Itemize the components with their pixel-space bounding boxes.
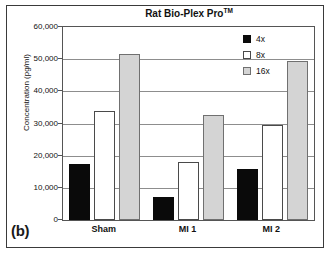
x-axis-tick-labels: ShamMI 1MI 2 xyxy=(62,224,315,240)
bar-mi-1-4x xyxy=(153,197,174,220)
x-axis-tick-label: MI 2 xyxy=(262,224,280,234)
y-axis-tick-label: 60,000 xyxy=(34,22,58,31)
legend-item-4x: 4x xyxy=(243,32,299,46)
bar-mi-2-8x xyxy=(262,125,283,220)
legend-swatch-icon xyxy=(243,51,251,59)
bar-mi-1-8x xyxy=(178,162,199,220)
figure-panel: (b) Rat Bio-Plex ProTM Concentration (pg… xyxy=(0,0,331,254)
y-axis-tick-label: 20,000 xyxy=(34,150,58,159)
bar-sham-8x xyxy=(94,111,115,220)
legend-item-8x: 8x xyxy=(243,48,299,62)
y-axis-tick-label: 50,000 xyxy=(34,54,58,63)
bar-sham-16x xyxy=(119,54,140,220)
bar-mi-2-4x xyxy=(237,169,258,220)
chart-title: Rat Bio-Plex ProTM xyxy=(60,8,318,19)
gridline xyxy=(63,91,314,92)
legend-item-label: 16x xyxy=(256,66,270,76)
legend-item-label: 8x xyxy=(256,50,265,60)
chart-legend: 4x8x16x xyxy=(243,32,299,80)
chart-title-text: Rat Bio-Plex Pro xyxy=(145,8,223,19)
chart-title-trademark: TM xyxy=(223,7,232,14)
y-axis-tick-label: 10,000 xyxy=(34,182,58,191)
bar-sham-4x xyxy=(69,164,90,220)
x-axis-tick-label: Sham xyxy=(92,224,117,234)
bar-mi-1-16x xyxy=(203,115,224,220)
legend-swatch-icon xyxy=(243,67,251,75)
y-axis-tick-label: 30,000 xyxy=(34,118,58,127)
y-axis-tick-label: 40,000 xyxy=(34,86,58,95)
bar-mi-2-16x xyxy=(287,61,308,220)
legend-item-label: 4x xyxy=(256,34,265,44)
legend-item-16x: 16x xyxy=(243,64,299,78)
y-axis-tick-labels: 010,00020,00030,00040,00050,00060,000 xyxy=(14,26,58,221)
x-axis-tick-label: MI 1 xyxy=(179,224,197,234)
legend-swatch-icon xyxy=(243,35,251,43)
panel-letter-label: (b) xyxy=(11,222,29,239)
